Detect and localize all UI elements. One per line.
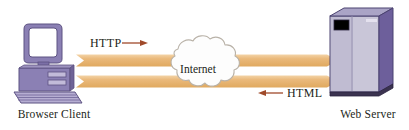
html-arrow-head [258,90,266,96]
browser-client-caption: Browser Client [4,108,104,120]
http-direction-arrow [122,40,148,46]
http-label: HTTP [90,36,122,51]
html-direction-arrow [258,90,283,96]
http-arrow-head [140,40,148,46]
web-server-caption: Web Server [330,108,406,120]
network-diagram: Internet [0,0,409,130]
html-label: HTML [287,86,323,101]
